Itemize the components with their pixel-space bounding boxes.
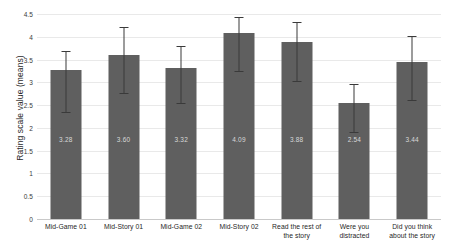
x-axis-category-label: Mid-Story 01 bbox=[95, 223, 153, 232]
y-axis-tick-label: 1.5 bbox=[3, 147, 33, 154]
bar-group: 4.09 bbox=[210, 14, 268, 219]
error-bar bbox=[123, 27, 124, 94]
y-axis-tick-label: 2.5 bbox=[3, 102, 33, 109]
error-bar-cap-top bbox=[119, 27, 128, 28]
error-bar bbox=[354, 84, 355, 131]
y-axis-tick-label: 1 bbox=[3, 170, 33, 177]
error-bar-cap-bottom bbox=[61, 112, 70, 113]
error-bar-cap-bottom bbox=[292, 81, 301, 82]
y-axis-tick-label: 4 bbox=[3, 33, 33, 40]
x-axis-category-label: Mid-Game 02 bbox=[152, 223, 210, 232]
y-axis-tick-label: 2 bbox=[3, 124, 33, 131]
error-bar-cap-top bbox=[292, 22, 301, 23]
bar-value-label: 4.09 bbox=[232, 136, 245, 143]
x-axis-category-labels: Mid-Game 01Mid-Story 01Mid-Game 02Mid-St… bbox=[37, 223, 441, 248]
error-bar bbox=[181, 46, 182, 103]
bar-value-label: 3.60 bbox=[117, 136, 130, 143]
error-bar-cap-bottom bbox=[234, 71, 243, 72]
bar-value-label: 3.88 bbox=[290, 136, 303, 143]
x-axis-category-label: Mid-Story 02 bbox=[210, 223, 268, 232]
y-axis-tick-label: 3.5 bbox=[3, 56, 33, 63]
bar-value-label: 3.32 bbox=[175, 136, 188, 143]
bar-group: 3.44 bbox=[383, 14, 441, 219]
error-bar bbox=[412, 36, 413, 100]
error-bar-cap-bottom bbox=[408, 100, 417, 101]
bar-value-label: 3.44 bbox=[405, 136, 418, 143]
bar-group: 3.88 bbox=[268, 14, 326, 219]
bar-value-label: 3.28 bbox=[59, 136, 72, 143]
y-axis-tick-label: 3 bbox=[3, 79, 33, 86]
x-axis-category-label: Were you distracted bbox=[326, 223, 384, 240]
error-bar bbox=[238, 17, 239, 71]
error-bar-cap-top bbox=[234, 17, 243, 18]
bar-group: 3.32 bbox=[152, 14, 210, 219]
y-axis-tick-labels: 00.511.522.533.544.5 bbox=[0, 14, 33, 219]
y-axis-tick-label: 0 bbox=[3, 216, 33, 223]
bar-group: 3.28 bbox=[37, 14, 95, 219]
plot-inner: 3.283.603.324.093.882.543.44 bbox=[37, 14, 441, 219]
error-bar-cap-top bbox=[61, 51, 70, 52]
error-bar-cap-bottom bbox=[119, 93, 128, 94]
y-axis-tick-label: 4.5 bbox=[3, 11, 33, 18]
error-bar bbox=[296, 22, 297, 81]
error-bar-cap-top bbox=[350, 84, 359, 85]
bar-group: 3.60 bbox=[95, 14, 153, 219]
error-bar-cap-top bbox=[408, 36, 417, 37]
x-axis-category-label: Did you think about the story bbox=[383, 223, 441, 240]
x-axis-category-label: Read the rest of the story bbox=[268, 223, 326, 240]
error-bar-cap-bottom bbox=[177, 103, 186, 104]
bar-value-label: 2.54 bbox=[348, 136, 361, 143]
plot-area: 3.283.603.324.093.882.543.44 bbox=[37, 14, 441, 219]
error-bar-cap-bottom bbox=[350, 132, 359, 133]
bar-group: 2.54 bbox=[326, 14, 384, 219]
bar-chart: Rating scale value (means) 00.511.522.53… bbox=[0, 0, 450, 248]
error-bar bbox=[65, 51, 66, 112]
x-axis-category-label: Mid-Game 01 bbox=[37, 223, 95, 232]
gridline bbox=[37, 219, 441, 220]
y-axis-tick-label: 0.5 bbox=[3, 193, 33, 200]
error-bar-cap-top bbox=[177, 46, 186, 47]
